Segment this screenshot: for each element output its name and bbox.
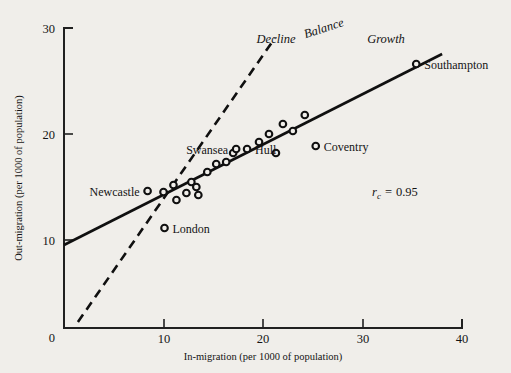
data-point [213, 161, 220, 168]
y-ticks-group [64, 134, 73, 240]
trend-line-regression [64, 54, 442, 245]
trend-line-balance [78, 38, 275, 322]
data-point-swansea [233, 146, 240, 153]
stat-value: 0.95 [396, 185, 418, 199]
y-ticklabel-20: 20 [43, 128, 56, 142]
x-ticklabel-40: 40 [456, 332, 469, 346]
stat-subscript: c [377, 191, 381, 201]
point-label-newcastle: Newcastle [90, 185, 140, 199]
y-ticklabel-0: 0 [49, 331, 55, 345]
x-axis-title: In-migration (per 1000 of population) [184, 351, 343, 363]
point-labels-layer: NewcastleSwanseaHullCoventrySouthamptonL… [90, 58, 489, 236]
data-point [266, 131, 273, 138]
data-point-southampton [413, 61, 420, 68]
x-ticks-group [164, 319, 363, 328]
stat-equals: = [385, 185, 392, 199]
data-point-newcastle [144, 188, 151, 195]
x-tick-labels: 10 20 30 40 [158, 332, 469, 346]
x-ticklabel-20: 20 [257, 332, 270, 346]
y-ticklabel-10: 10 [43, 234, 56, 248]
data-point [173, 197, 180, 204]
data-point [160, 189, 167, 196]
data-point [290, 128, 297, 135]
data-point-hull [244, 146, 251, 153]
data-point [193, 184, 200, 191]
y-tick-labels: 30 20 10 0 [43, 22, 56, 345]
y-axis-title: Out-migration (per 1000 of population) [13, 95, 25, 261]
trend-lines-layer [64, 38, 442, 322]
annotation-balance: Balance [302, 15, 346, 41]
chart-canvas: 30 20 10 0 10 20 30 40 In-migration (per… [0, 0, 511, 373]
y-ticklabel-30: 30 [43, 22, 56, 36]
data-point [195, 192, 202, 199]
data-point [223, 159, 230, 166]
annotation-growth: Growth [367, 32, 405, 46]
data-point [183, 190, 190, 197]
x-ticklabel-30: 30 [357, 332, 370, 346]
point-label-hull: Hull [255, 143, 277, 157]
migration-scatter-figure: 30 20 10 0 10 20 30 40 In-migration (per… [0, 0, 511, 373]
annotation-decline: Decline [256, 32, 296, 46]
point-label-southampton: Southampton [424, 58, 488, 72]
point-label-swansea: Swansea [186, 143, 229, 157]
point-label-coventry: Coventry [324, 140, 369, 154]
point-label-london: London [172, 222, 209, 236]
correlation-statistic: rc=0.95 [372, 185, 418, 201]
svg-text:rc=0.95: rc=0.95 [372, 185, 418, 201]
data-point [301, 112, 308, 119]
data-point-coventry [312, 143, 319, 150]
data-point-london [161, 225, 168, 232]
data-point [170, 182, 177, 189]
data-point [204, 169, 211, 176]
data-point [280, 121, 287, 128]
x-ticklabel-10: 10 [158, 332, 171, 346]
